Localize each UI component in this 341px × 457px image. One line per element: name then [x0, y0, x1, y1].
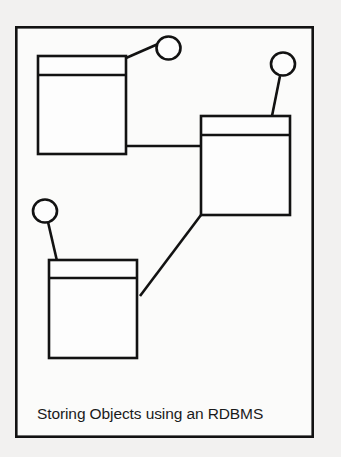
table-box-top-left[interactable]	[38, 56, 126, 154]
table-box-bottom-left-body	[49, 260, 137, 358]
table-box-bottom-left[interactable]	[49, 260, 137, 358]
diagram-svg: Storing Objects using an RDBMS	[0, 0, 341, 457]
table-box-right[interactable]	[201, 116, 290, 215]
object-node-left[interactable]	[33, 200, 57, 223]
object-node-right[interactable]	[271, 53, 295, 76]
diagram-canvas: Storing Objects using an RDBMS	[0, 0, 341, 457]
table-box-top-left-body	[38, 56, 126, 154]
table-box-right-body	[201, 116, 290, 215]
object-node-top[interactable]	[157, 37, 181, 60]
diagram-caption: Storing Objects using an RDBMS	[37, 405, 263, 422]
